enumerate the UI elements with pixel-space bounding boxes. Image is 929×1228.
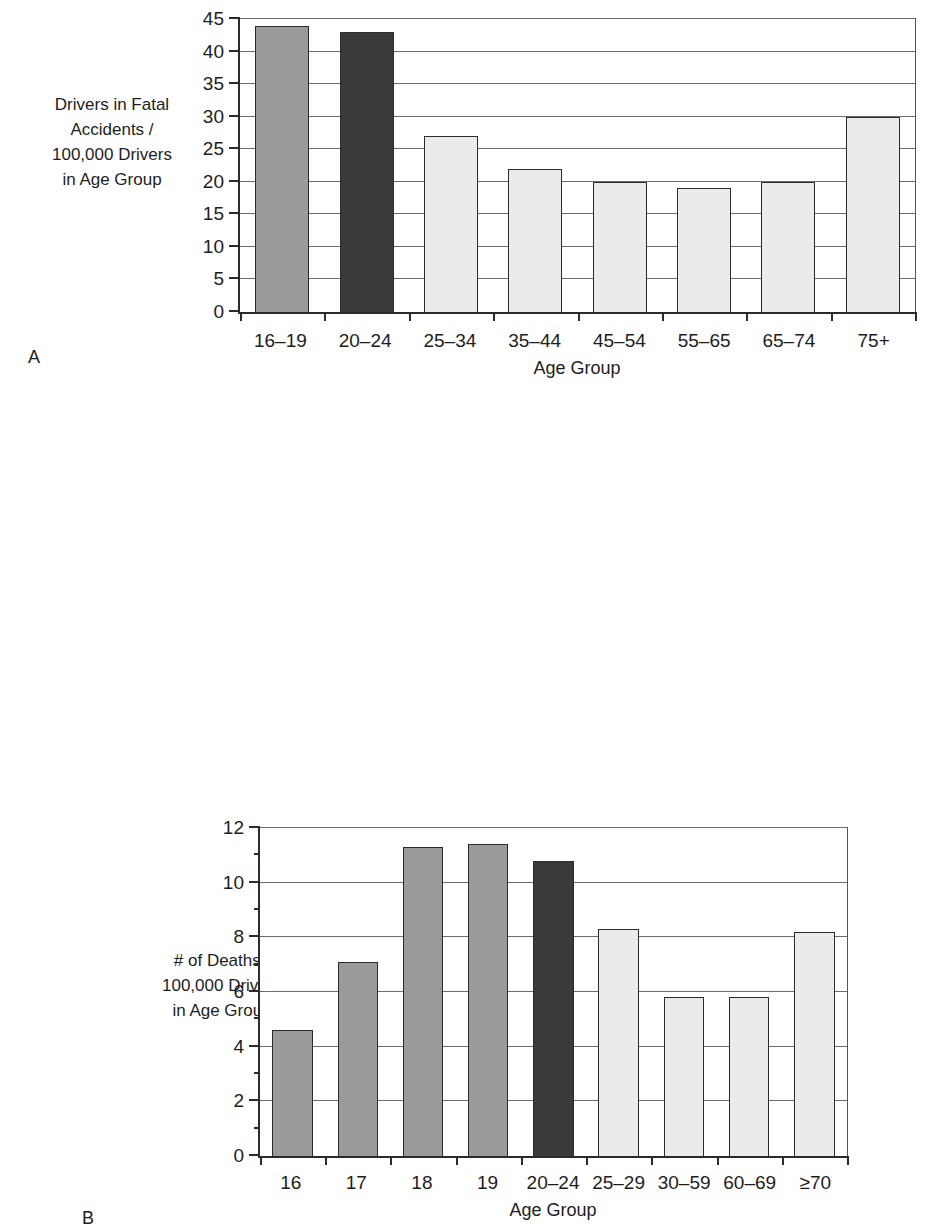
x-axis-category-label: 25–34	[408, 330, 493, 352]
bar[interactable]	[677, 188, 731, 312]
y-axis-tick	[229, 180, 240, 182]
x-axis-labels-b: 1617181920–2425–2930–5960–69≥70	[258, 1172, 848, 1194]
x-axis-category-label: 17	[324, 1172, 390, 1194]
y-axis-tick-label: 40	[203, 41, 224, 63]
y-axis-title-line: in Age Group	[14, 167, 210, 192]
bar[interactable]	[338, 962, 378, 1156]
x-axis-category-label: 16–19	[238, 330, 323, 352]
x-axis-category-label: 20–24	[520, 1172, 586, 1194]
y-axis-tick-label: 2	[233, 1090, 244, 1112]
bar-slot	[831, 19, 915, 312]
x-axis-category-label: 16	[258, 1172, 324, 1194]
x-axis-category-label: 18	[389, 1172, 455, 1194]
plot-area-b: 024681012	[258, 827, 848, 1158]
x-axis-category-label: 60–69	[717, 1172, 783, 1194]
x-axis-category-label: 65–74	[747, 330, 832, 352]
x-axis-category-label: 30–59	[651, 1172, 717, 1194]
x-axis-category-label: 19	[455, 1172, 521, 1194]
y-axis-tick	[229, 50, 240, 52]
y-axis-tick	[229, 82, 240, 84]
x-axis-labels-a: 16–1920–2425–3435–4445–5455–6565–7475+	[238, 330, 916, 352]
y-axis-tick	[249, 1099, 260, 1101]
plot-area-a: 051015202530354045	[238, 18, 916, 314]
bar-slot	[717, 828, 782, 1156]
y-axis-tick-label: 45	[203, 8, 224, 30]
x-axis-tick	[260, 1156, 262, 1165]
bar[interactable]	[664, 997, 704, 1156]
x-axis-tick	[456, 1156, 458, 1165]
bar[interactable]	[593, 182, 647, 312]
x-axis-tick	[651, 1156, 653, 1165]
y-axis-title-a: Drivers in FatalAccidents /100,000 Drive…	[14, 92, 210, 192]
x-axis-tick	[493, 312, 495, 321]
y-axis-title-line: 100,000 Drivers	[14, 142, 210, 167]
x-axis-category-label: 45–54	[577, 330, 662, 352]
chart-panel-b: # of Deaths /100,000 Driversin Age Group…	[0, 400, 929, 844]
y-axis-tick-label: 4	[233, 1036, 244, 1058]
x-axis-category-label: 35–44	[492, 330, 577, 352]
x-axis-tick	[782, 1156, 784, 1165]
x-axis-tick	[578, 312, 580, 321]
y-axis-tick	[229, 245, 240, 247]
bar-slot	[325, 828, 390, 1156]
bar-slot	[390, 828, 455, 1156]
x-axis-title-a: Age Group	[238, 358, 916, 379]
bar[interactable]	[761, 182, 815, 312]
bar[interactable]	[424, 136, 478, 312]
bar[interactable]	[272, 1030, 312, 1156]
panel-letter-a: A	[28, 347, 40, 368]
x-axis-tick	[409, 312, 411, 321]
y-axis-tick-label: 0	[213, 301, 224, 323]
y-axis-tick	[249, 935, 260, 937]
panel-letter-b: B	[82, 1208, 94, 1228]
x-axis-category-label: 25–29	[586, 1172, 652, 1194]
x-axis-tick	[324, 312, 326, 321]
bar[interactable]	[729, 997, 769, 1156]
x-axis-category-label: 20–24	[323, 330, 408, 352]
bar-slot	[324, 19, 408, 312]
y-axis-tick-label: 5	[213, 268, 224, 290]
bar-slot	[521, 828, 586, 1156]
x-axis-tick	[521, 1156, 523, 1165]
chart-panel-a: Drivers in FatalAccidents /100,000 Drive…	[0, 0, 929, 400]
bar-slot	[260, 828, 325, 1156]
bar-slot	[746, 19, 830, 312]
bar[interactable]	[340, 32, 394, 312]
bar-series-b	[260, 828, 847, 1156]
bar[interactable]	[598, 929, 638, 1156]
y-axis-tick	[249, 1154, 260, 1156]
y-axis-tick	[229, 147, 240, 149]
x-axis-tick	[831, 312, 833, 321]
x-axis-title-b: Age Group	[258, 1200, 848, 1221]
bar[interactable]	[468, 844, 508, 1156]
x-axis-ticks-b	[260, 1156, 847, 1165]
x-axis-tick	[390, 1156, 392, 1165]
bar[interactable]	[255, 26, 309, 312]
bar[interactable]	[403, 847, 443, 1156]
y-axis-tick-label: 10	[203, 236, 224, 258]
bar-slot	[456, 828, 521, 1156]
bar-slot	[586, 828, 651, 1156]
bar-slot	[409, 19, 493, 312]
x-axis-category-label: ≥70	[783, 1172, 849, 1194]
y-axis-tick	[229, 115, 240, 117]
bar-slot	[240, 19, 324, 312]
x-axis-tick	[746, 312, 748, 321]
bar[interactable]	[846, 117, 900, 312]
y-axis-tick	[229, 212, 240, 214]
y-axis-tick-label: 12	[223, 817, 244, 839]
x-axis-tick	[240, 312, 242, 321]
y-axis-tick-label: 8	[233, 926, 244, 948]
x-axis-tick	[915, 312, 917, 321]
bar-series-a	[240, 19, 915, 312]
x-axis-tick	[325, 1156, 327, 1165]
y-axis-tick-label: 10	[223, 872, 244, 894]
x-axis-ticks-a	[240, 312, 915, 321]
bar-slot	[782, 828, 847, 1156]
x-axis-tick	[662, 312, 664, 321]
bar[interactable]	[508, 169, 562, 312]
bar[interactable]	[794, 932, 834, 1156]
bar[interactable]	[533, 861, 573, 1156]
y-axis-tick	[229, 17, 240, 19]
bar-slot	[578, 19, 662, 312]
